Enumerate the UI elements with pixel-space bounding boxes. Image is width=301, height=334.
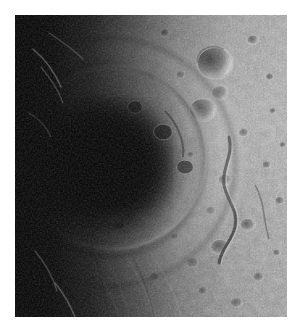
surface-render — [15, 15, 287, 317]
planetary-surface-photograph — [15, 15, 287, 317]
image-viewer — [0, 0, 301, 334]
